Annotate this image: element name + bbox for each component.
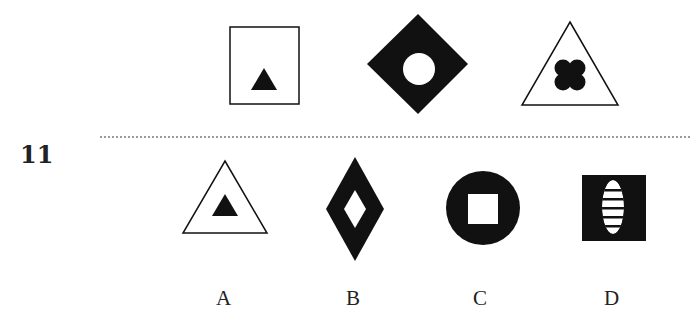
option-b-label[interactable]: B	[346, 286, 360, 311]
square-icon	[468, 194, 498, 224]
sequence-figure-1	[229, 26, 301, 106]
option-d-label[interactable]: D	[604, 286, 619, 311]
option-c-figure[interactable]	[446, 171, 520, 245]
four-lobed-cross-icon	[555, 60, 586, 91]
option-d-figure[interactable]	[582, 175, 646, 241]
option-a-label[interactable]: A	[216, 286, 231, 311]
option-a-figure[interactable]	[182, 159, 268, 235]
sequence-figure-2	[366, 13, 470, 115]
sequence-figure-3	[520, 20, 620, 106]
circle-icon	[403, 53, 435, 85]
option-b-figure[interactable]	[325, 156, 385, 262]
question-number: 11	[20, 140, 53, 169]
divider	[100, 136, 690, 138]
option-c-label[interactable]: C	[473, 286, 487, 311]
